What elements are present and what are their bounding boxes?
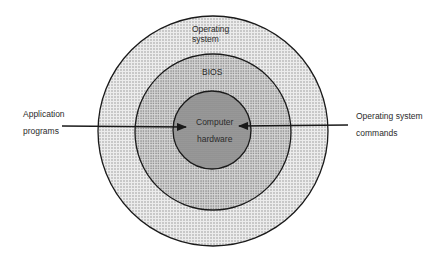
application-programs-label: Application programs xyxy=(23,109,65,136)
operating-system-label: Operating system xyxy=(192,24,229,44)
application-programs-label-line2: programs xyxy=(23,126,65,136)
os-commands-label: Operating system commands xyxy=(356,111,423,138)
application-programs-label-line1: Application xyxy=(23,109,65,119)
os-commands-label-line1: Operating system xyxy=(356,111,423,121)
computer-hardware-label: Computer hardware xyxy=(196,117,233,144)
operating-system-label-line2: system xyxy=(192,34,229,44)
operating-system-label-line1: Operating xyxy=(192,24,229,34)
computer-hardware-label-line1: Computer xyxy=(196,117,233,127)
os-commands-label-line2: commands xyxy=(356,128,423,138)
bios-label: BIOS xyxy=(202,67,222,77)
computer-hardware-label-line2: hardware xyxy=(196,134,233,144)
